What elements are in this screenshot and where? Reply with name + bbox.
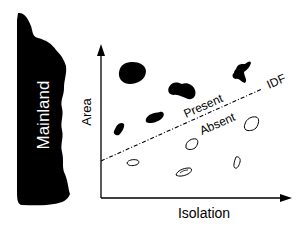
x-axis-arrow-icon — [280, 194, 292, 202]
island-present-medium — [168, 82, 195, 99]
idf-line-group: IDF Present Absent — [101, 71, 288, 161]
island-absent-4-inner — [180, 170, 188, 173]
absent-label: Absent — [198, 109, 238, 137]
islands-absent — [127, 117, 259, 176]
island-absent-1 — [244, 117, 258, 131]
mainland-label: Mainland — [34, 81, 53, 150]
axes: Area Isolation — [79, 44, 292, 221]
island-present-irregular — [233, 61, 251, 83]
idf-label: IDF — [265, 71, 288, 92]
y-axis-label: Area — [79, 98, 94, 126]
island-absent-2 — [186, 139, 198, 150]
island-present-small-elongated — [146, 112, 164, 123]
island-absent-5 — [234, 157, 240, 168]
island-present-small — [114, 123, 124, 135]
y-axis-arrow-icon — [97, 44, 105, 56]
x-axis-label: Isolation — [178, 205, 230, 221]
island-diagram: Mainland Area Isolation IDF Present Abse… — [0, 0, 304, 230]
island-absent-4 — [176, 168, 192, 176]
island-present-large — [119, 62, 146, 84]
island-absent-3 — [127, 160, 139, 166]
idf-line — [101, 89, 262, 161]
mainland: Mainland — [17, 13, 70, 205]
